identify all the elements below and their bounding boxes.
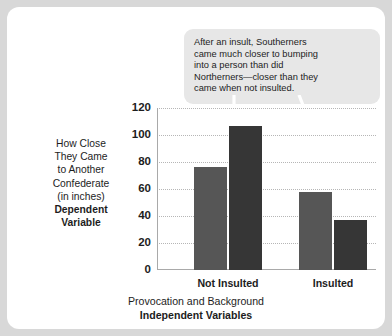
callout-line: After an insult, Southerners: [194, 37, 371, 49]
plot-area: [157, 108, 376, 270]
chart-card: After an insult, Southerners came much c…: [7, 7, 385, 329]
y-axis-tick-label: 60: [109, 182, 151, 194]
gridline: [159, 216, 376, 217]
gridline: [159, 189, 376, 190]
bar-insulted-southerners: [334, 220, 367, 270]
y-axis-tick-label: 80: [109, 155, 151, 167]
bar-not-insulted-northerners: [194, 167, 227, 270]
y-axis-tick-label: 100: [109, 128, 151, 140]
callout-line: Northerners—closer than they: [194, 72, 371, 84]
y-axis-tick-label: 20: [109, 236, 151, 248]
y-axis-tick-label: 0: [109, 263, 151, 275]
gridline: [159, 108, 376, 109]
bar-insulted-northerners: [299, 192, 332, 270]
gridline: [159, 162, 376, 163]
callout-annotation: After an insult, Southerners came much c…: [184, 29, 380, 104]
callout-line: came much closer to bumping: [194, 49, 371, 61]
x-axis-title: Provocation and Background Independent V…: [7, 295, 385, 322]
x-axis-tick-label: Not Insulted: [178, 277, 278, 289]
x-axis-title-line: Independent Variables: [7, 309, 385, 323]
x-axis-title-line: Provocation and Background: [7, 295, 385, 309]
callout-line: came when not insulted.: [194, 83, 371, 95]
x-axis-tick-label: Insulted: [283, 277, 383, 289]
callout-line: into a person than did: [194, 60, 371, 72]
gridline: [159, 135, 376, 136]
bar-not-insulted-southerners: [229, 126, 262, 270]
y-axis-tick-label: 120: [109, 101, 151, 113]
y-axis-tick-label: 40: [109, 209, 151, 221]
